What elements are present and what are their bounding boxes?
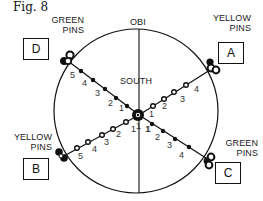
- figure-title: Fig. 8: [13, 0, 48, 14]
- spoke-b-num-3: 3: [104, 138, 109, 147]
- corner-c-box: C: [215, 162, 241, 184]
- spoke-a-num-3: 3: [180, 95, 185, 104]
- center-hub-icon: [132, 109, 144, 121]
- corner-a-label-line1: YELLOW: [205, 13, 251, 23]
- corner-d-label-line1: GREEN: [44, 15, 84, 25]
- corner-b-box: B: [23, 158, 49, 180]
- spoke-a-num-4: 4: [194, 85, 199, 94]
- spoke-d-num-3: 3: [95, 89, 100, 98]
- spoke-b-num-1: 1: [136, 122, 141, 131]
- spoke-d-num-5: 5: [70, 71, 75, 80]
- corner-d-box: D: [23, 38, 49, 60]
- center-label: SOUTH: [120, 76, 152, 86]
- spoke-c-num-1: 1: [146, 125, 151, 134]
- corner-c-label: GREEN PINS: [212, 138, 258, 158]
- spoke-b-num-2: 2: [116, 130, 121, 139]
- corner-c-label-line1: GREEN: [212, 138, 258, 148]
- corner-b-label-line2: PINS: [0, 142, 52, 152]
- corner-a-box: A: [218, 42, 244, 64]
- spoke-c-num-2: 2: [155, 133, 160, 142]
- spoke-b-num-4: 4: [92, 145, 97, 154]
- corner-b-label: YELLOW PINS: [0, 132, 52, 152]
- pins-d-icon: [60, 51, 73, 64]
- pins-b-icon: [55, 148, 68, 162]
- spoke-d-num-1: 1: [119, 104, 124, 113]
- spoke-d-num-2: 2: [108, 99, 113, 108]
- corner-d-label: GREEN PINS: [44, 15, 84, 35]
- spoke-a-num-1: 1: [149, 110, 154, 119]
- corner-a-label-line2: PINS: [205, 23, 251, 33]
- spoke-d-num-4: 4: [82, 79, 87, 88]
- spoke-a-num-2: 2: [162, 102, 167, 111]
- obi-label: OBI: [130, 17, 146, 27]
- corner-c-label-line2: PINS: [212, 148, 258, 158]
- spoke-b-num-5: 5: [78, 152, 83, 161]
- corner-b-label-line1: YELLOW: [0, 132, 52, 142]
- bottom-left-num: 1: [131, 125, 136, 134]
- corner-a-label: YELLOW PINS: [205, 13, 251, 33]
- figure-8-diagram: Fig. 8 OBI SOUTH GREEN PINS D YELLOW PIN…: [0, 0, 263, 201]
- corner-d-label-line2: PINS: [44, 25, 84, 35]
- spoke-c-num-3: 3: [167, 141, 172, 150]
- spoke-c-num-4: 4: [179, 151, 184, 160]
